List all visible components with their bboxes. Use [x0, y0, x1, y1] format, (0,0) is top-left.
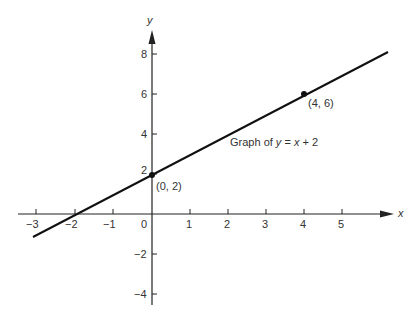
x-tick-label: 0 — [141, 218, 147, 230]
point-label-4-6: (4, 6) — [308, 97, 334, 109]
x-tick-label: −2 — [65, 218, 78, 230]
y-axis-label: y — [147, 14, 153, 26]
equation-annotation: Graph of y = x + 2 — [230, 136, 318, 148]
point-label-0-2: (0, 2) — [156, 180, 182, 192]
point-4-6 — [301, 91, 307, 97]
x-tick-label: −3 — [26, 218, 39, 230]
x-tick-label: 2 — [224, 218, 230, 230]
x-tick-label: 5 — [338, 218, 344, 230]
y-tick-label: −4 — [134, 288, 147, 300]
point-0-2 — [149, 172, 155, 178]
plot-area — [0, 0, 419, 320]
x-axis-label: x — [398, 207, 404, 219]
x-tick-label: 4 — [300, 218, 306, 230]
x-tick-label: 3 — [262, 218, 268, 230]
y-tick-label: 8 — [141, 48, 147, 60]
y-tick-label: 6 — [141, 88, 147, 100]
y-tick-label: 2 — [141, 164, 147, 176]
series-line — [33, 52, 388, 237]
y-tick-label: −2 — [134, 248, 147, 260]
y-axis-arrow-icon — [149, 30, 156, 44]
line-chart: y x −3 −2 −1 0 1 2 3 4 5 8 6 4 2 −2 −4 (… — [0, 0, 419, 320]
y-tick-label: 4 — [141, 128, 147, 140]
x-tick-label: −1 — [103, 218, 116, 230]
x-axis-arrow-icon — [380, 211, 394, 218]
x-tick-label: 1 — [186, 218, 192, 230]
